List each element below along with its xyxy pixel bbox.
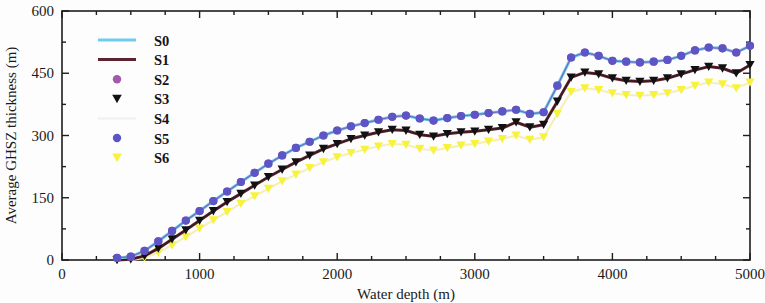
data-point [429,116,437,124]
legend-item-s1[interactable]: S1 [98,52,169,68]
data-point [498,107,506,115]
data-point [251,169,259,177]
data-point [237,178,245,186]
data-point [705,43,713,51]
data-point [209,197,217,205]
series-connector-s6 [117,82,750,260]
x-tick-label: 3000 [460,266,490,282]
data-point [567,53,575,61]
tick-labels-layer: 0100020003000400050000150300450600 [32,3,765,282]
series-s6 [112,78,754,264]
legend-item-s2[interactable]: S2 [113,72,170,88]
series-s4 [117,82,750,260]
data-point [278,151,286,159]
x-axis-title: Water depth (m) [357,286,455,303]
legend-swatch-circle-marker [113,75,121,83]
data-point [154,237,162,245]
series-line-s4 [117,82,750,260]
data-point [526,110,534,118]
data-point [416,114,424,122]
legend-label: S4 [154,111,169,127]
data-point [374,116,382,124]
legend-item-s5[interactable]: S5 [113,131,170,147]
y-tick-label: 300 [32,128,55,144]
data-point [650,58,658,66]
chart-figure: 0100020003000400050000150300450600 Water… [0,0,765,303]
data-point [732,48,740,56]
data-point [292,144,300,152]
data-point [182,216,190,224]
data-point [127,253,135,261]
series-s3 [112,61,754,264]
data-point [636,58,644,66]
data-point [196,207,204,215]
data-point [691,46,699,54]
data-point [512,106,520,114]
x-tick-label: 0 [58,266,66,282]
data-point [361,119,369,127]
data-point [443,114,451,122]
data-point [223,187,231,195]
legend-label: S1 [154,52,169,68]
legend-item-s4[interactable]: S4 [98,111,169,127]
data-point [113,254,121,262]
data-point [347,122,355,130]
data-point [540,108,548,116]
series-layer [112,42,754,265]
data-point [484,109,492,117]
data-point [663,56,671,64]
data-point [595,52,603,60]
data-point [746,42,754,50]
data-point [140,247,148,255]
data-point [581,48,589,56]
data-point [333,126,341,134]
legend-item-s0[interactable]: S0 [98,33,169,49]
data-point [718,44,726,52]
x-tick-label: 2000 [322,266,352,282]
y-tick-label: 0 [47,252,55,268]
x-tick-label: 1000 [185,266,215,282]
legend-label: S0 [154,33,169,49]
legend-swatch-triangle-marker [112,154,122,163]
data-point [402,111,410,119]
data-point [319,131,327,139]
legend-label: S2 [154,72,169,88]
legend-item-s3[interactable]: S3 [112,91,169,107]
data-point [264,160,272,168]
x-tick-label: 4000 [597,266,627,282]
legend-layer: S0S1S2S3S4S5S6 [98,33,169,167]
legend-label: S3 [154,91,169,107]
legend-item-s6[interactable]: S6 [112,150,169,166]
data-point [471,111,479,119]
plot-canvas: 0100020003000400050000150300450600 Water… [0,0,765,303]
axis-labels-layer: Water depth (m)Average GHSZ thickness (m… [3,47,455,303]
y-tick-label: 150 [32,190,55,206]
data-point [608,57,616,65]
y-tick-label: 600 [32,3,55,19]
data-point [457,112,465,120]
legend-swatch-triangle-marker [112,95,122,104]
data-point [622,58,630,66]
data-point [168,227,176,235]
legend-label: S5 [154,131,169,147]
data-point [553,82,561,90]
legend-swatch-circle-marker [113,134,121,142]
y-axis-title: Average GHSZ thickness (m) [3,47,20,225]
legend-label: S6 [154,150,169,166]
data-point [677,52,685,60]
data-point [306,138,314,146]
x-tick-label: 5000 [735,266,765,282]
y-tick-label: 450 [32,65,55,81]
data-point [388,113,396,121]
